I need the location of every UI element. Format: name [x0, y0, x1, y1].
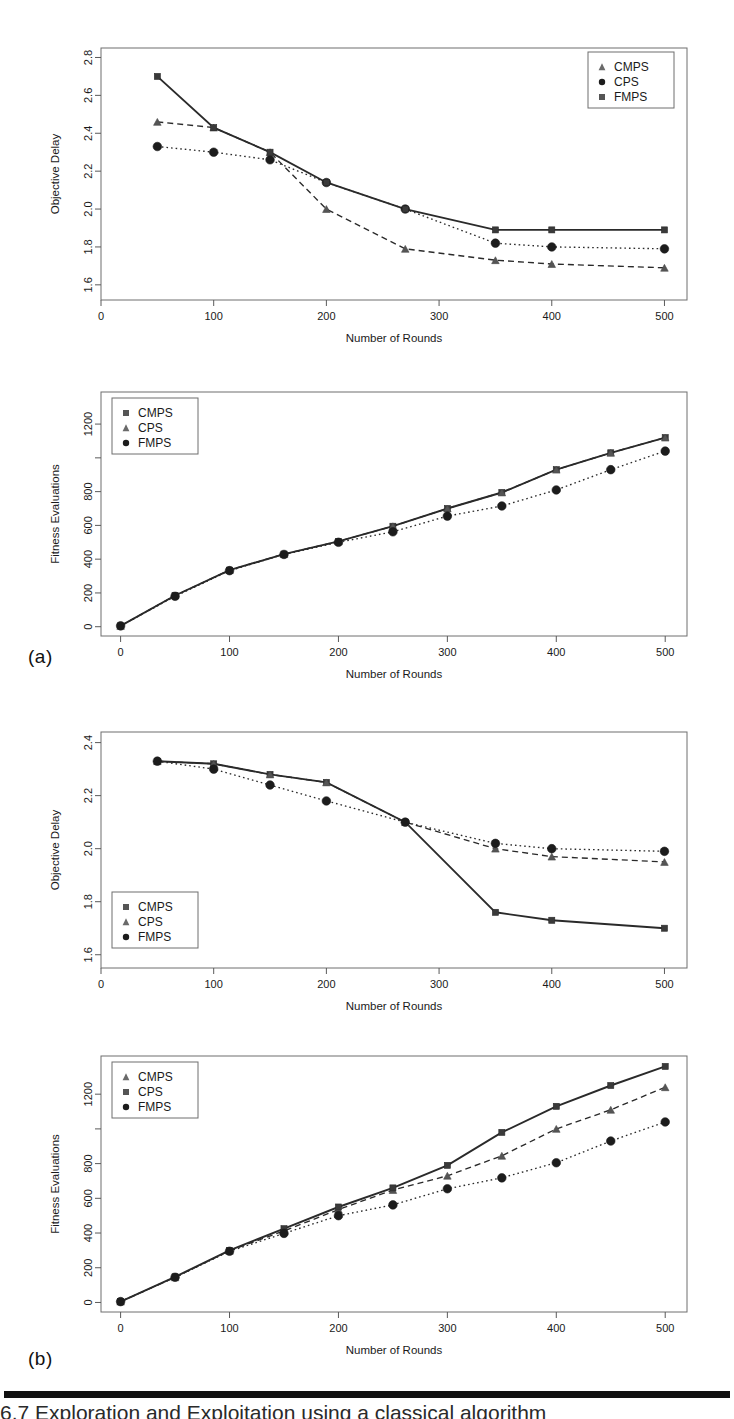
series-line-cps [157, 147, 664, 249]
x-tick-label: 0 [98, 978, 104, 990]
data-point-fmps [266, 781, 275, 790]
panel-b-label: (b) [28, 1348, 53, 1370]
legend-label-fmps: FMPS [138, 1100, 171, 1114]
data-point-cmps [553, 1125, 561, 1132]
series-line-cps [121, 1066, 666, 1301]
data-point-fmps [280, 1229, 289, 1238]
legend-label-cmps: CMPS [138, 900, 173, 914]
data-point-fmps [116, 622, 125, 631]
data-point-cps [660, 245, 669, 254]
series-line-fmps [157, 761, 664, 851]
x-tick-label: 200 [329, 1322, 347, 1334]
data-point-cps [209, 148, 218, 157]
legend-label-cps: CPS [138, 421, 163, 435]
data-point-cmps [661, 1084, 669, 1091]
data-point-fmps [402, 206, 408, 212]
legend-label-cps: CPS [614, 75, 639, 89]
data-point-cps [390, 1185, 396, 1191]
caption-clipped: 6.7 Exploration and Exploitation using a… [0, 1402, 734, 1419]
data-point-fmps [552, 1158, 561, 1167]
y-tick-label: 1200 [82, 1082, 94, 1106]
chart-panel-b-top: 1.61.82.02.22.40100200300400500Number of… [0, 706, 734, 1016]
legend-marker-cmps [123, 410, 129, 416]
y-tick-label: 600 [82, 1189, 94, 1207]
data-point-fmps [171, 592, 180, 601]
x-tick-label: 500 [655, 310, 673, 322]
x-tick-label: 500 [655, 978, 673, 990]
legend-label-cmps: CMPS [614, 60, 649, 74]
series-line-fmps [121, 1122, 666, 1302]
data-point-cps [266, 155, 275, 164]
y-tick-label: 2.8 [82, 50, 94, 65]
legend-label-fmps: FMPS [138, 930, 171, 944]
series-line-fmps [121, 451, 666, 626]
panel-a-label: (a) [28, 646, 53, 668]
data-point-fmps [443, 512, 452, 521]
series-line-cmps [121, 1087, 666, 1301]
legend-label-fmps: FMPS [614, 90, 647, 104]
legend-label-cps: CPS [138, 915, 163, 929]
chart-panel-a-bottom: 020040060080012000100200300400500Number … [0, 368, 734, 688]
y-axis-title: Objective Delay [49, 133, 61, 214]
data-point-fmps [171, 1273, 180, 1282]
y-tick-label: 2.4 [82, 126, 94, 141]
y-tick-label: 0 [82, 624, 94, 630]
x-tick-label: 300 [430, 978, 448, 990]
x-axis-title: Number of Rounds [346, 332, 443, 344]
y-tick-label: 2.0 [82, 841, 94, 856]
data-point-fmps [334, 538, 343, 547]
caption-rule [4, 1391, 730, 1398]
data-point-fmps [267, 149, 273, 155]
data-point-fmps [661, 227, 667, 233]
data-point-fmps [211, 125, 217, 131]
data-point-cps [444, 1162, 450, 1168]
legend-label-cps: CPS [138, 1085, 163, 1099]
data-point-fmps [153, 757, 162, 766]
legend-label-cmps: CMPS [138, 406, 173, 420]
data-point-fmps [225, 566, 234, 575]
data-point-cps [153, 142, 162, 151]
data-point-cps [547, 243, 556, 252]
x-tick-label: 300 [438, 646, 456, 658]
data-point-cmps [498, 1152, 506, 1159]
data-point-fmps [606, 1137, 615, 1146]
y-tick-label: 600 [82, 516, 94, 534]
caption-text: 6.7 Exploration and Exploitation using a… [0, 1402, 734, 1419]
data-point-cps [335, 1204, 341, 1210]
x-axis-title: Number of Rounds [346, 668, 443, 680]
data-point-cmps [549, 917, 555, 923]
chart-panel-b-bottom: 020040060080012000100200300400500Number … [0, 1030, 734, 1360]
x-tick-label: 400 [543, 310, 561, 322]
figure-container: 1.61.82.02.22.42.62.80100200300400500Num… [0, 0, 734, 1419]
y-tick-label: 1200 [82, 412, 94, 436]
legend-marker-fmps [123, 440, 129, 446]
legend-marker-fmps [123, 1104, 129, 1110]
x-tick-label: 100 [220, 1322, 238, 1334]
data-point-fmps [547, 844, 556, 853]
y-tick-label: 1.6 [82, 277, 94, 292]
x-tick-label: 300 [438, 1322, 456, 1334]
data-point-fmps [323, 179, 329, 185]
x-tick-label: 100 [205, 310, 223, 322]
data-point-fmps [491, 839, 500, 848]
data-point-fmps [492, 227, 498, 233]
y-axis-title: Fitness Evaluations [49, 464, 61, 564]
x-tick-label: 0 [118, 1322, 124, 1334]
x-tick-label: 500 [656, 1322, 674, 1334]
x-tick-label: 100 [205, 978, 223, 990]
x-tick-label: 200 [317, 978, 335, 990]
legend-marker-fmps [123, 934, 129, 940]
legend-marker-cps [123, 1089, 129, 1095]
data-point-fmps [322, 797, 331, 806]
y-axis-title: Fitness Evaluations [49, 1134, 61, 1234]
y-tick-label: 200 [82, 584, 94, 602]
data-point-fmps [661, 1118, 670, 1127]
x-axis-title: Number of Rounds [346, 1000, 443, 1012]
y-tick-label: 1.8 [82, 239, 94, 254]
y-tick-label: 400 [82, 550, 94, 568]
x-tick-label: 400 [547, 646, 565, 658]
data-point-cps [608, 1082, 614, 1088]
x-tick-label: 400 [547, 1322, 565, 1334]
chart-a-bottom: 020040060080012000100200300400500Number … [0, 368, 734, 688]
data-point-fmps [606, 465, 615, 474]
